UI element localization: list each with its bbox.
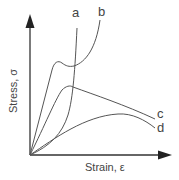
y-axis-arrow-icon bbox=[26, 14, 35, 28]
x-axis-arrow-icon bbox=[158, 151, 172, 160]
curve-d bbox=[30, 114, 155, 155]
curve-label-a: a bbox=[72, 6, 79, 19]
diagram-canvas bbox=[0, 0, 179, 180]
curve-c bbox=[30, 86, 155, 155]
x-axis-title: Strain, ε bbox=[85, 162, 125, 173]
curve-label-c: c bbox=[157, 107, 164, 120]
y-axis-title: Stress, σ bbox=[8, 69, 19, 113]
curve-label-d: d bbox=[157, 121, 164, 134]
stress-strain-diagram: a b c d Stress, σ Strain, ε bbox=[0, 0, 179, 180]
curve-a bbox=[30, 28, 77, 155]
curve-label-b: b bbox=[98, 5, 105, 18]
